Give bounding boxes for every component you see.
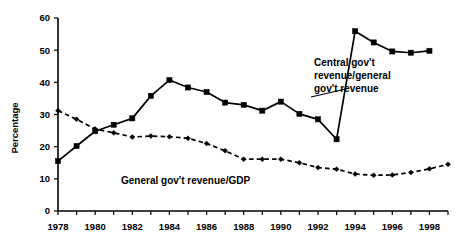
central-gov-annotation-line-3: gov't revenue <box>314 83 379 94</box>
line-chart: 0102030405060 19781980198219841986198819… <box>0 0 455 249</box>
data-point-marker <box>74 143 79 148</box>
x-tick-label: 1992 <box>307 221 328 232</box>
x-tick-label: 1998 <box>419 221 440 232</box>
y-tick-label: 0 <box>45 205 50 216</box>
x-tick-label: 1988 <box>233 221 254 232</box>
x-tick-label: 1990 <box>270 221 291 232</box>
data-point-marker <box>408 50 413 55</box>
y-tick-label: 60 <box>39 12 50 23</box>
data-point-marker <box>353 29 358 34</box>
y-axis-title: Percentage <box>9 102 20 153</box>
data-point-marker <box>148 93 153 98</box>
data-point-marker <box>167 77 172 82</box>
x-tick-label: 1982 <box>122 221 143 232</box>
data-point-marker <box>371 40 376 45</box>
y-tick-label: 50 <box>39 45 50 56</box>
data-point-marker <box>55 159 60 164</box>
x-tick-label: 1978 <box>47 221 68 232</box>
x-tick-label: 1986 <box>196 221 217 232</box>
data-point-marker <box>334 137 339 142</box>
y-tick-label: 30 <box>39 109 50 120</box>
data-point-marker <box>185 85 190 90</box>
data-point-marker <box>278 99 283 104</box>
data-point-marker <box>297 111 302 116</box>
central-gov-annotation-line-2: revenue/general <box>314 70 391 81</box>
data-point-marker <box>390 49 395 54</box>
data-point-marker <box>204 89 209 94</box>
y-tick-label: 10 <box>39 173 50 184</box>
y-tick-label: 40 <box>39 77 50 88</box>
x-tick-label: 1994 <box>345 221 367 232</box>
data-point-marker <box>427 48 432 53</box>
general-gov-annotation: General gov't revenue/GDP <box>121 175 250 186</box>
data-point-marker <box>241 102 246 107</box>
data-point-marker <box>223 100 228 105</box>
x-tick-label: 1996 <box>382 221 403 232</box>
chart-figure: 0102030405060 19781980198219841986198819… <box>0 0 455 249</box>
y-tick-label: 20 <box>39 141 50 152</box>
data-point-marker <box>315 117 320 122</box>
x-tick-label: 1980 <box>85 221 106 232</box>
x-tick-label: 1984 <box>159 221 181 232</box>
central-gov-annotation-line-1: Central gov't <box>314 57 375 68</box>
data-point-marker <box>130 116 135 121</box>
data-point-marker <box>260 108 265 113</box>
data-point-marker <box>111 122 116 127</box>
